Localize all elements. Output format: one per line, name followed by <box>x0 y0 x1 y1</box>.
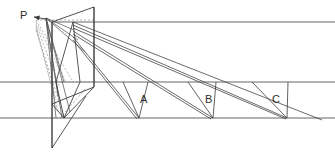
viewpoint-marker-group <box>34 16 46 21</box>
object-c-ray-top <box>287 82 288 118</box>
label-object-b: B <box>205 93 212 105</box>
sight-ray-7 <box>73 40 137 119</box>
dashed-p-6 <box>36 28 58 112</box>
perspective-diagram: P A B C <box>0 0 335 155</box>
sight-ray-1 <box>73 22 322 120</box>
sight-rays-group <box>73 22 322 120</box>
object-b-ray-top <box>213 82 216 118</box>
diagram-canvas: P A B C <box>0 0 335 155</box>
dashed-rising <box>60 88 86 118</box>
sight-ray-2 <box>73 25 287 118</box>
lower-edge-to-plane <box>64 87 94 118</box>
sight-ray-3 <box>73 28 286 119</box>
dashed-construction-group <box>34 17 94 118</box>
object-a-ray-side <box>123 82 139 118</box>
lower-edge-diagonal <box>52 96 86 148</box>
viewpoint-arrowhead-icon <box>34 16 40 21</box>
label-viewpoint-p: P <box>20 9 27 21</box>
object-c-group <box>252 82 288 118</box>
label-object-a: A <box>140 93 148 105</box>
ray-p-lower-2 <box>46 18 56 118</box>
object-c-ray-side <box>252 82 287 118</box>
horizontal-reference-lines <box>0 22 335 118</box>
label-object-c: C <box>272 93 280 105</box>
